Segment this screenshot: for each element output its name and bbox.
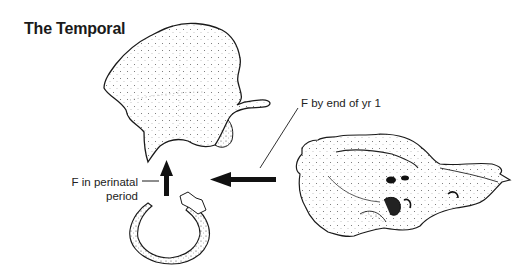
- temporal-bone-illustration: [0, 0, 524, 277]
- tympanic-ring: [130, 192, 210, 264]
- squamous-part: [104, 23, 270, 162]
- arrow-up-icon: [160, 160, 173, 196]
- petromastoid-part: [296, 134, 510, 237]
- arrow-left-icon: [210, 172, 276, 187]
- foramen-icon: [386, 177, 396, 184]
- leader-line-year1: [260, 108, 298, 168]
